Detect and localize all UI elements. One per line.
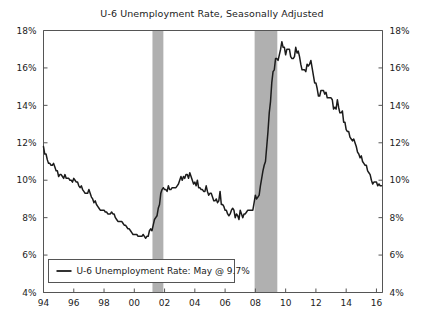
y-axis-label-left: 10% xyxy=(16,175,36,185)
x-axis-label: 14 xyxy=(340,298,352,308)
y-axis-label-right: 12% xyxy=(390,138,410,148)
x-axis-label: 10 xyxy=(280,298,292,308)
y-axis-label-right: 6% xyxy=(390,250,405,260)
y-axis-label-left: 6% xyxy=(22,250,37,260)
x-axis-label: 02 xyxy=(159,298,170,308)
x-axis-label: 08 xyxy=(250,298,262,308)
chart-plot-area: 4%6%8%10%12%14%16%18% 4%6%8%10%12%14%16%… xyxy=(0,0,424,315)
chart-legend: U-6 Unemployment Rate: May @ 9.7% xyxy=(49,260,251,283)
chart-container: U-6 Unemployment Rate, Seasonally Adjust… xyxy=(0,0,424,315)
x-axis-label: 12 xyxy=(310,298,321,308)
y-axis-label-right: 8% xyxy=(390,213,405,223)
y-axis-label-left: 8% xyxy=(22,213,37,223)
x-axis-label: 98 xyxy=(98,298,110,308)
series-line-u6-unemployment-rate xyxy=(44,42,382,239)
x-axis-label: 96 xyxy=(68,298,80,308)
legend-label: U-6 Unemployment Rate: May @ 9.7% xyxy=(77,266,251,276)
axes-group xyxy=(44,31,383,293)
y-axis-label-right: 10% xyxy=(390,175,410,185)
x-axis-label: 16 xyxy=(371,298,383,308)
y-axis-label-left: 12% xyxy=(16,138,36,148)
x-axis-label: 00 xyxy=(129,298,141,308)
y-axis-label-left: 14% xyxy=(16,101,36,111)
y-axis-right-labels: 4%6%8%10%12%14%16%18% xyxy=(390,26,410,298)
x-axis-label: 06 xyxy=(219,298,231,308)
y-axis-label-left: 16% xyxy=(16,63,36,73)
x-axis-labels: 949698000204060810121416 xyxy=(38,298,383,308)
y-axis-left-labels: 4%6%8%10%12%14%16%18% xyxy=(16,26,36,298)
y-axis-label-right: 4% xyxy=(390,288,405,298)
recession-shading-group xyxy=(152,31,277,293)
x-axis-label: 94 xyxy=(38,298,50,308)
recession-2001-band xyxy=(152,31,163,293)
y-axis-label-left: 18% xyxy=(16,26,36,36)
data-series-group xyxy=(44,42,382,239)
y-axis-label-left: 4% xyxy=(22,288,37,298)
y-axis-label-right: 18% xyxy=(390,26,410,36)
y-axis-label-right: 16% xyxy=(390,63,410,73)
tick-marks-group xyxy=(44,31,383,293)
y-axis-label-right: 14% xyxy=(390,101,410,111)
x-axis-label: 04 xyxy=(189,298,201,308)
